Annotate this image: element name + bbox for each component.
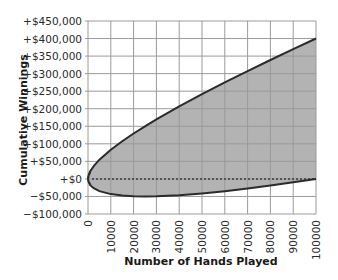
x-tick-label: 30000 <box>150 220 162 253</box>
x-tick-label: 0 <box>82 220 94 227</box>
x-tick-label: 40000 <box>173 220 185 253</box>
origin-cap <box>88 171 90 185</box>
chart: +$450,000+$400,000+$350,000+$300,000+$25… <box>0 0 338 280</box>
y-tick-label: +$350,000 <box>23 50 82 62</box>
x-tick-label: 70000 <box>242 220 254 253</box>
y-tick-label: +$400,000 <box>23 33 82 45</box>
x-tick-label: 60000 <box>219 220 231 253</box>
y-tick-label: +$450,000 <box>23 15 82 27</box>
y-axis-ticks: +$450,000+$400,000+$350,000+$300,000+$25… <box>23 15 82 220</box>
x-axis-title: Number of Hands Played <box>124 255 277 268</box>
y-tick-label: +$50,000 <box>30 155 82 167</box>
y-tick-label: +$0 <box>60 173 82 185</box>
y-tick-label: −$100,000 <box>23 208 82 220</box>
y-tick-label: +$300,000 <box>23 68 82 80</box>
y-tick-label: +$150,000 <box>23 120 82 132</box>
x-tick-label: 20000 <box>128 220 140 253</box>
y-tick-label: −$50,000 <box>30 190 82 202</box>
y-tick-label: +$250,000 <box>23 85 82 97</box>
x-tick-label: 50000 <box>196 220 208 253</box>
x-tick-label: 80000 <box>264 220 276 253</box>
x-tick-label: 100000 <box>310 220 322 260</box>
x-tick-label: 10000 <box>105 220 117 253</box>
y-axis-title: Cumulative Winnings <box>17 54 30 186</box>
x-tick-label: 90000 <box>287 220 299 253</box>
y-tick-label: +$100,000 <box>23 138 82 150</box>
y-tick-label: +$200,000 <box>23 103 82 115</box>
